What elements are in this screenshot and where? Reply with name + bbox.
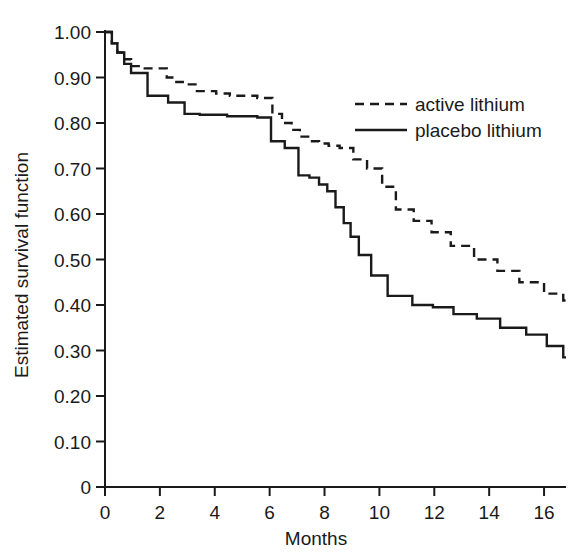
y-axis-tick-label: 0.60 [54, 204, 91, 225]
y-axis-tick-label: 0.80 [54, 113, 91, 134]
x-axis-tick-label: 8 [319, 502, 330, 523]
series-line-placebo-lithium [105, 32, 566, 357]
y-axis-tick-label: 0.70 [54, 159, 91, 180]
x-axis-tick-label: 2 [155, 502, 166, 523]
y-axis-tick-label: 0.50 [54, 250, 91, 271]
x-axis-tick-label: 0 [100, 502, 111, 523]
chart-legend: active lithiumplacebo lithium [355, 94, 542, 141]
x-axis-tick-label: 12 [424, 502, 445, 523]
x-axis-title: Months [285, 528, 347, 549]
legend-label-placebo-lithium: placebo lithium [415, 120, 542, 141]
x-axis-tick-label: 10 [369, 502, 390, 523]
survival-curve-figure: 00.100.200.300.400.500.600.700.800.901.0… [0, 0, 576, 560]
y-axis-tick-labels: 00.100.200.300.400.500.600.700.800.901.0… [54, 22, 91, 498]
y-axis-tick-label: 0.30 [54, 341, 91, 362]
x-axis-tick-label: 4 [209, 502, 220, 523]
y-axis-title: Estimated survival function [11, 152, 32, 378]
x-axis-tick-label: 6 [264, 502, 275, 523]
x-axis-tick-label: 14 [479, 502, 501, 523]
y-axis-tick-label: 0.20 [54, 386, 91, 407]
y-axis-tick-label: 0.90 [54, 68, 91, 89]
x-axis-ticks [105, 487, 544, 496]
y-axis-tick-label: 0.10 [54, 432, 91, 453]
x-axis-tick-labels: 0246810121416 [100, 502, 555, 523]
x-axis-tick-label: 16 [533, 502, 554, 523]
data-series-layer [105, 32, 566, 357]
y-axis-ticks [96, 32, 105, 487]
legend-label-active-lithium: active lithium [415, 94, 525, 115]
chart-canvas: 00.100.200.300.400.500.600.700.800.901.0… [0, 0, 576, 560]
y-axis-tick-label: 1.00 [54, 22, 91, 43]
y-axis-tick-label: 0 [80, 477, 91, 498]
series-line-active-lithium [105, 32, 566, 300]
y-axis-tick-label: 0.40 [54, 295, 91, 316]
